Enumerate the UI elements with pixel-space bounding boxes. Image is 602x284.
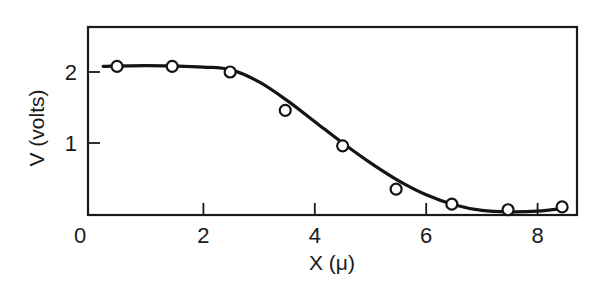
y-tick-label: 1	[65, 131, 77, 156]
data-point-marker	[280, 105, 291, 116]
x-tick-label: 2	[197, 223, 209, 248]
plot-frame	[88, 27, 577, 215]
data-point-marker	[446, 199, 457, 210]
x-tick-label: 8	[531, 223, 543, 248]
y-axis-label: V (volts)	[25, 89, 48, 166]
fitted-curve	[103, 66, 565, 212]
data-point-marker	[337, 140, 348, 151]
x-tick-label: 4	[309, 223, 321, 248]
data-point-marker	[112, 61, 123, 72]
y-axis-ticks: 12	[65, 60, 100, 156]
data-point-marker	[557, 201, 568, 212]
chart-figure: 12 02468 X (μ) V (volts)	[0, 0, 602, 284]
x-tick-label: 0	[74, 223, 86, 248]
data-point-marker	[225, 67, 236, 78]
x-tick-label: 6	[420, 223, 432, 248]
data-point-marker	[391, 184, 402, 195]
data-point-marker	[167, 61, 178, 72]
data-point-marker	[503, 204, 514, 215]
data-points	[112, 61, 568, 215]
x-axis-label: X (μ)	[309, 251, 355, 274]
y-tick-label: 2	[65, 60, 77, 85]
